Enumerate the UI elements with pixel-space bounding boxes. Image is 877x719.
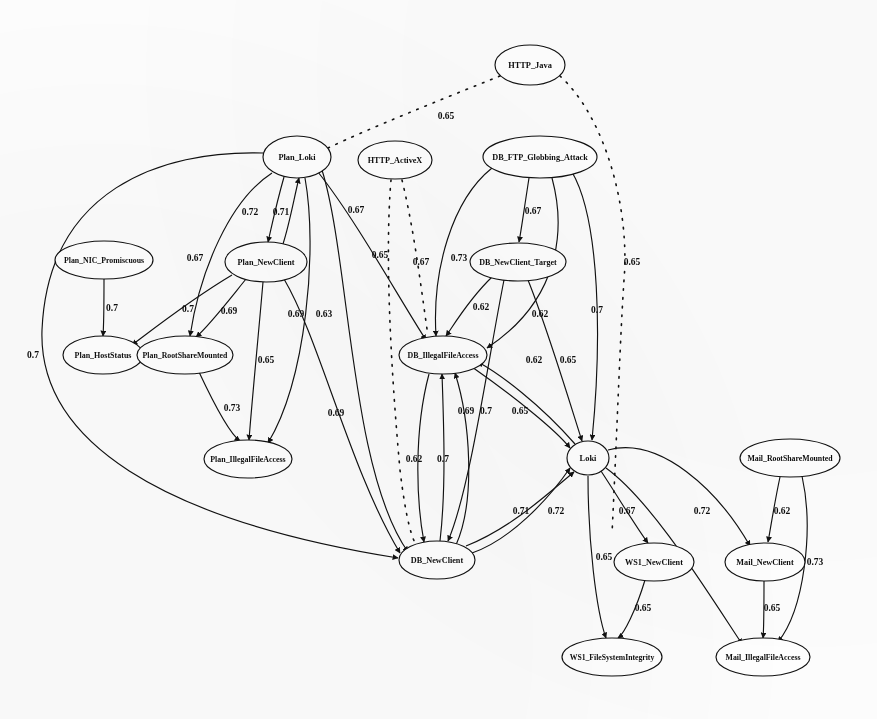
edge-weight-label: 0.7 (27, 350, 39, 360)
node-label: Plan_NewClient (238, 258, 295, 267)
node-label: Plan_NIC_Promiscuous (64, 256, 144, 265)
edge-weight-label: 0.62 (406, 454, 423, 464)
node-WS1_FileSystemIntegrity[interactable]: WS1_FileSystemIntegrity (562, 638, 662, 676)
edge-Plan_NIC_Promiscuous-to-Plan_HostStatus (103, 279, 104, 336)
edge-weight-label: 0.67 (619, 506, 636, 516)
node-label: Loki (580, 454, 597, 463)
node-WS1_NewClient[interactable]: WS1_NewClient (614, 543, 694, 581)
node-DB_IllegalFileAccess[interactable]: DB_IllegalFileAccess (399, 336, 487, 374)
edge-weight-label: 0.7 (106, 303, 118, 313)
node-Plan_Loki[interactable]: Plan_Loki (263, 136, 331, 178)
edge-HTTP_Java-to-Plan_Loki (328, 76, 500, 148)
edge-weight-label: 0.62 (532, 309, 549, 319)
edge-weight-label: 0.72 (242, 207, 259, 217)
graph-canvas: 0.650.650.670.670.70.720.710.670.690.650… (0, 0, 877, 719)
edge-weight-label: 0.69 (458, 406, 475, 416)
node-label: Plan_RootShareMounted (143, 351, 228, 360)
edge-weight-label: 0.71 (273, 207, 290, 217)
edge-weight-label: 0.73 (224, 403, 241, 413)
node-label: DB_NewClient (411, 556, 464, 565)
node-label: DB_NewClient_Target (479, 258, 557, 267)
node-DB_NewClient[interactable]: DB_NewClient (399, 541, 475, 579)
node-Plan_RootShareMounted[interactable]: Plan_RootShareMounted (137, 336, 233, 374)
edge-weight-label: 0.73 (451, 253, 468, 263)
node-label: Plan_HostStatus (75, 351, 132, 360)
edge-weight-label: 0.67 (348, 205, 365, 215)
nodes-layer: HTTP_JavaPlan_LokiHTTP_ActiveXDB_FTP_Glo… (55, 45, 840, 676)
edge-weight-label: 0.72 (548, 506, 565, 516)
node-DB_NewClient_Target[interactable]: DB_NewClient_Target (470, 243, 566, 281)
edge-weight-label: 0.71 (513, 506, 530, 516)
edge-weight-label: 0.65 (438, 111, 455, 121)
node-Mail_RootShareMounted[interactable]: Mail_RootShareMounted (740, 439, 840, 477)
node-Mail_NewClient[interactable]: Mail_NewClient (725, 543, 805, 581)
edge-weight-label: 0.65 (560, 355, 577, 365)
edge-weight-label: 0.63 (316, 309, 333, 319)
edge-weight-label: 0.7 (591, 305, 603, 315)
edge-weight-label: 0.69 (328, 408, 345, 418)
node-label: DB_IllegalFileAccess (407, 351, 478, 360)
edge-weight-label: 0.65 (512, 406, 529, 416)
node-Mail_IllegalFileAccess[interactable]: Mail_IllegalFileAccess (716, 638, 810, 676)
edge-weight-label: 0.69 (221, 306, 238, 316)
node-label: Mail_RootShareMounted (747, 454, 833, 463)
node-label: DB_FTP_Globbing_Attack (492, 153, 588, 162)
edge-weight-label: 0.72 (694, 506, 711, 516)
edge-weight-label: 0.65 (258, 355, 275, 365)
node-label: Plan_Loki (278, 153, 316, 162)
edge-weight-label: 0.67 (525, 206, 542, 216)
edge-weight-label: 0.62 (473, 302, 490, 312)
node-HTTP_ActiveX[interactable]: HTTP_ActiveX (358, 141, 432, 179)
edge-weight-label: 0.65 (635, 603, 652, 613)
node-label: Mail_NewClient (736, 558, 794, 567)
edge-DB_NewClient_Target-to-DB_NewClient (448, 280, 504, 541)
node-Plan_NIC_Promiscuous[interactable]: Plan_NIC_Promiscuous (55, 241, 153, 279)
edge-weight-label: 0.65 (624, 257, 641, 267)
attack-graph-diagram: 0.650.650.670.670.70.720.710.670.690.650… (0, 0, 877, 719)
node-DB_FTP_Globbing_Attack[interactable]: DB_FTP_Globbing_Attack (483, 136, 597, 178)
edge-weight-label: 0.69 (288, 309, 305, 319)
node-Plan_NewClient[interactable]: Plan_NewClient (225, 242, 307, 282)
node-label: Mail_IllegalFileAccess (726, 653, 801, 662)
edge-weight-label: 0.62 (526, 355, 543, 365)
node-Loki[interactable]: Loki (567, 441, 609, 475)
edge-weight-label: 0.7 (437, 454, 449, 464)
edge-DB_NewClient-to-DB_IllegalFileAccess (455, 373, 469, 545)
node-Plan_IllegalFileAccess[interactable]: Plan_IllegalFileAccess (204, 440, 292, 478)
node-Plan_HostStatus[interactable]: Plan_HostStatus (63, 336, 143, 374)
node-label: WS1_NewClient (625, 558, 683, 567)
edge-weight-label: 0.65 (764, 603, 781, 613)
edge-Plan_Loki-to-DB_NewClient (322, 170, 408, 552)
edge-weight-label: 0.67 (187, 253, 204, 263)
edge-weight-label: 0.62 (774, 506, 791, 516)
edge-weight-label: 0.67 (413, 257, 430, 267)
edge-weight-label: 0.65 (596, 552, 613, 562)
edge-weight-label: 0.7 (480, 406, 492, 416)
edge-Loki-to-Mail_NewClient (608, 448, 750, 546)
node-HTTP_Java[interactable]: HTTP_Java (495, 45, 565, 85)
edge-weight-label: 0.73 (807, 557, 824, 567)
node-label: Plan_IllegalFileAccess (210, 455, 285, 464)
edge-weight-label: 0.7 (182, 304, 194, 314)
node-label: HTTP_Java (508, 61, 553, 70)
node-label: WS1_FileSystemIntegrity (570, 653, 655, 662)
node-label: HTTP_ActiveX (368, 156, 423, 165)
edge-weight-label: 0.65 (372, 250, 389, 260)
